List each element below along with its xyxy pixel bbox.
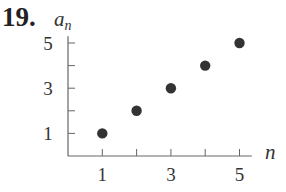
scatter-chart: 135135ann xyxy=(0,0,286,192)
y-tick-label: 5 xyxy=(43,33,53,54)
data-point xyxy=(131,106,141,116)
x-tick-label: 1 xyxy=(98,164,108,185)
y-axis-label: an xyxy=(54,7,72,33)
x-tick-label: 3 xyxy=(166,164,176,185)
x-axis-label: n xyxy=(265,140,276,164)
y-tick-label: 1 xyxy=(43,123,53,144)
data-point xyxy=(166,83,176,93)
data-point xyxy=(200,60,210,70)
y-tick-label: 3 xyxy=(43,78,53,99)
data-point xyxy=(234,38,244,48)
data-point xyxy=(97,128,107,138)
x-tick-label: 5 xyxy=(235,164,245,185)
